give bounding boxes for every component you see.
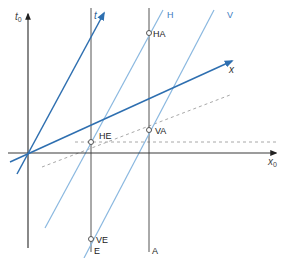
x-axis	[10, 61, 232, 162]
event-VE-label: VE	[96, 235, 108, 245]
worldline-E-label: E	[94, 246, 100, 256]
event-VE-marker	[89, 237, 94, 242]
event-HA-marker	[147, 31, 152, 36]
simultaneity-dashed-slanted	[42, 95, 230, 167]
minkowski-diagram: t0 x0 t x H V E A HA HE VA VE	[0, 0, 290, 258]
worldline-V-label: V	[227, 10, 233, 20]
event-HA-label: HA	[153, 29, 166, 39]
x-axis-label: x	[228, 64, 235, 75]
event-HE-label: HE	[99, 131, 112, 141]
x0-axis-label: x0	[267, 156, 277, 168]
worldline-H-label: H	[167, 10, 174, 20]
event-VA-marker	[147, 128, 152, 133]
event-HE-marker	[89, 140, 94, 145]
t0-axis-label: t0	[15, 11, 22, 23]
worldline-A-label: A	[152, 246, 158, 256]
event-VA-label: VA	[155, 126, 166, 136]
t-axis-label: t	[94, 10, 98, 21]
